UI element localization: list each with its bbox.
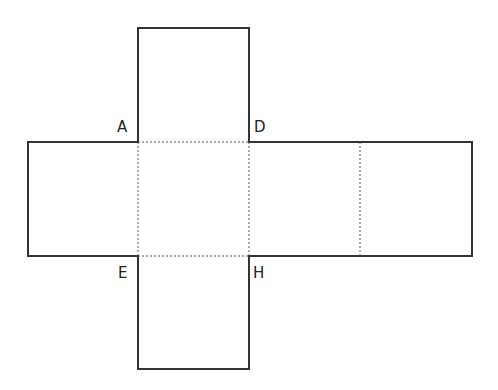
vertex-label-d: D — [254, 120, 266, 135]
net-outline — [28, 28, 472, 369]
fold-lines — [138, 142, 360, 256]
vertex-label-e: E — [118, 266, 127, 281]
cube-net-diagram — [0, 0, 498, 390]
vertex-label-h: H — [253, 266, 264, 281]
vertex-label-a: A — [117, 120, 127, 135]
